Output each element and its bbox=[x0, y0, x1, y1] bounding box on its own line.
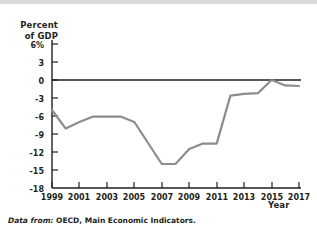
source-caption-text: OECD, Main Economic Indicators. bbox=[56, 216, 196, 225]
x-axis-ticks bbox=[52, 182, 299, 188]
data-series-line bbox=[52, 80, 299, 164]
source-caption-lead: Data from: bbox=[8, 216, 53, 225]
source-caption: Data from: OECD, Main Economic Indicator… bbox=[8, 216, 196, 225]
figure-container: Percent of GDP Year 6% 3 0 -3 -6 -9 -12 … bbox=[0, 0, 317, 240]
plot-area bbox=[0, 0, 317, 240]
y-axis-ticks bbox=[52, 44, 58, 170]
